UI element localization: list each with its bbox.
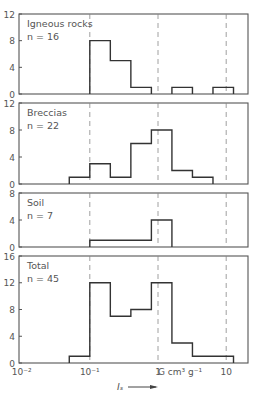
y-tick-label: 8	[9, 126, 15, 136]
panel-n-label: n = 45	[27, 273, 59, 284]
y-tick-label: 4	[9, 216, 15, 226]
histogram-bars	[69, 283, 233, 363]
x-axis: 10⁻²10⁻¹110G cm³ g⁻¹Iₛ	[12, 367, 233, 392]
y-tick-label: 4	[9, 332, 15, 342]
panel-n-label: n = 22	[27, 120, 59, 131]
x-unit-label: G cm³ g⁻¹	[158, 367, 202, 377]
x-tick-label: 10⁻²	[12, 367, 32, 377]
x-tick-label: 10	[220, 367, 232, 377]
panel-title: Soil	[27, 197, 44, 208]
histogram-bars	[69, 130, 213, 184]
y-tick-label: 12	[4, 278, 15, 288]
panel-frame	[19, 193, 248, 247]
y-tick-label: 12	[4, 99, 15, 109]
histogram-bars	[90, 220, 172, 247]
y-tick-label: 16	[4, 252, 16, 262]
panel-title: Total	[26, 260, 49, 271]
y-tick-label: 12	[4, 10, 15, 20]
panel-title: Igneous rocks	[27, 18, 93, 29]
y-tick-label: 8	[9, 36, 15, 46]
y-tick-label: 8	[9, 189, 15, 199]
x-tick-label: 10⁻¹	[80, 367, 100, 377]
histogram-figure: 04812Igneous rocksn = 1604812Brecciasn =…	[0, 0, 262, 396]
panel-n-label: n = 16	[27, 31, 59, 42]
panel-igneous-rocks: 04812Igneous rocksn = 16	[4, 10, 248, 100]
panel-n-label: n = 7	[27, 210, 53, 221]
y-tick-label: 8	[9, 305, 15, 315]
histogram-bars	[90, 41, 234, 94]
panel-title: Breccias	[27, 107, 67, 118]
y-tick-label: 4	[9, 153, 15, 163]
panel-breccias: 04812Brecciasn = 22	[4, 99, 248, 190]
x-axis-title: Iₛ	[117, 381, 124, 392]
panel-total: 0481216Totaln = 45	[4, 252, 248, 369]
arrow-head-icon	[150, 385, 158, 389]
y-tick-label: 4	[9, 63, 15, 73]
panel-soil: 048Soiln = 7	[9, 189, 248, 253]
